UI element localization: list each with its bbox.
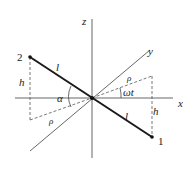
rho-left-label: ρ (48, 116, 54, 126)
rho-right-dashed (92, 76, 152, 98)
height-right-label: h (153, 105, 159, 117)
z-axis-label: z (81, 15, 87, 27)
omega-t-angle-arc (120, 88, 121, 98)
rod-length-upper-label: l (56, 61, 59, 73)
point-1-label: 1 (158, 135, 164, 147)
rod-length-lower-label: l (125, 110, 128, 122)
x-axis-label: x (177, 97, 183, 109)
point-2-label: 2 (17, 51, 23, 63)
point-2-mass (28, 55, 32, 59)
alpha-angle-arc (69, 86, 71, 107)
origin-pivot (90, 96, 94, 100)
rho-right-label: ρ (126, 73, 132, 83)
omega-t-angle-label: ωt (123, 86, 135, 98)
point-1-mass (150, 135, 154, 139)
y-axis-label: y (147, 45, 153, 57)
alpha-angle-label: α (57, 92, 63, 104)
y-axis (30, 50, 150, 151)
height-left-label: h (19, 76, 25, 88)
rotating-rod-diagram: z x y 2 1 l l h h α ωt ρ ρ (0, 0, 195, 176)
